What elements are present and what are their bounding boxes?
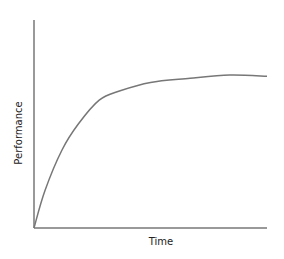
x-axis-label: Time: [149, 236, 173, 247]
performance-curve: [34, 75, 267, 228]
y-axis-label: Performance: [13, 101, 24, 164]
chart-canvas: [0, 0, 284, 259]
